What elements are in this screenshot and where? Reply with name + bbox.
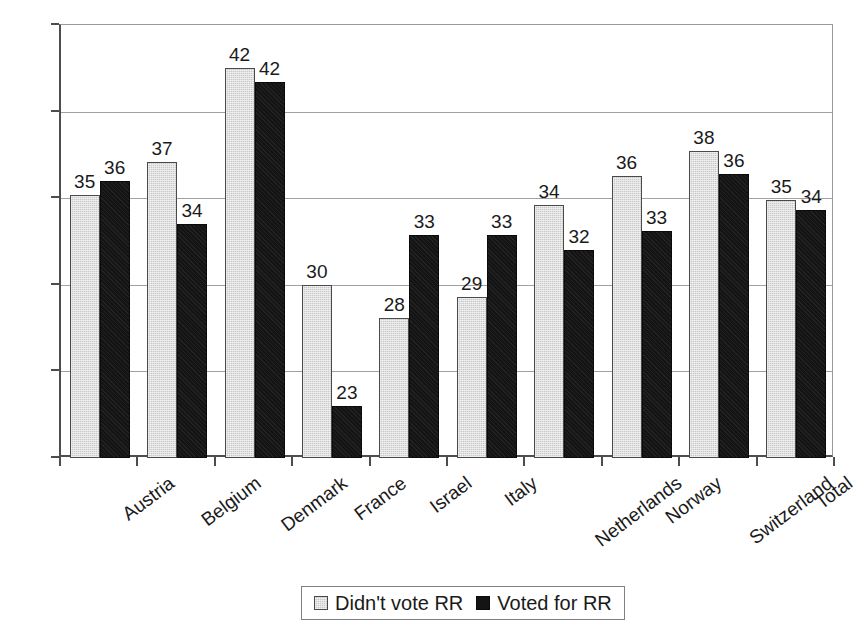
bar — [70, 195, 100, 458]
x-category-label: Austria — [119, 473, 178, 524]
x-category-label: Belgium — [198, 473, 264, 529]
legend-label: Didn't vote RR — [335, 593, 463, 613]
bar — [719, 174, 749, 458]
bar-value-label: 30 — [294, 262, 340, 281]
bar-value-label: 33 — [634, 208, 680, 227]
bar-value-label: 33 — [401, 212, 447, 231]
bar-value-label: 33 — [479, 212, 525, 231]
x-category-label: Italy — [501, 473, 540, 509]
bar — [409, 235, 439, 458]
x-tick-mark — [446, 457, 448, 466]
x-tick-mark — [601, 457, 603, 466]
x-tick-mark — [136, 457, 138, 466]
bar-value-label: 42 — [247, 59, 293, 78]
y-tick-mark — [51, 283, 59, 285]
bar-value-label: 37 — [139, 139, 185, 158]
bar — [332, 406, 362, 458]
bar-value-label: 36 — [711, 151, 757, 170]
y-tick-mark — [51, 456, 59, 458]
y-tick-mark — [51, 196, 59, 198]
bar — [487, 235, 517, 458]
bar — [642, 231, 672, 458]
x-category-label: Israel — [426, 473, 475, 516]
bar — [689, 151, 719, 458]
bar-value-label: 34 — [169, 201, 215, 220]
bar-value-label: 34 — [788, 187, 834, 206]
x-tick-mark — [59, 457, 61, 466]
x-tick-mark — [369, 457, 371, 466]
bar — [766, 200, 796, 458]
bar — [100, 181, 130, 458]
bar-value-label: 36 — [604, 153, 650, 172]
bar-value-label: 32 — [556, 227, 602, 246]
bar-value-label: 23 — [324, 383, 370, 402]
bar — [225, 68, 255, 458]
plot-area: 3536373442423023283329333432363338363534 — [59, 24, 833, 457]
x-tick-mark — [756, 457, 758, 466]
x-tick-mark — [678, 457, 680, 466]
bar — [379, 318, 409, 458]
y-tick-mark — [51, 369, 59, 371]
gridline — [61, 112, 832, 113]
y-tick-mark — [51, 110, 59, 112]
x-tick-mark — [214, 457, 216, 466]
bar-value-label: 36 — [92, 158, 138, 177]
y-tick-mark — [51, 23, 59, 25]
bar — [457, 297, 487, 458]
chart-legend: Didn't vote RRVoted for RR — [301, 586, 625, 620]
legend-entry: Didn't vote RR — [314, 593, 463, 613]
bar — [255, 82, 285, 458]
bar — [302, 285, 332, 458]
x-category-label: Denmark — [277, 473, 350, 535]
x-tick-mark — [523, 457, 525, 466]
bar — [564, 250, 594, 458]
legend-label: Voted for RR — [497, 593, 612, 613]
x-category-label: France — [351, 473, 410, 524]
x-tick-mark — [291, 457, 293, 466]
bar — [177, 224, 207, 458]
bar — [796, 210, 826, 458]
legend-swatch-icon — [314, 596, 328, 610]
bar-value-label: 38 — [681, 128, 727, 147]
x-tick-mark — [833, 457, 835, 466]
legend-swatch-icon — [476, 596, 490, 610]
bar-value-label: 34 — [526, 182, 572, 201]
legend-entry: Voted for RR — [476, 593, 612, 613]
